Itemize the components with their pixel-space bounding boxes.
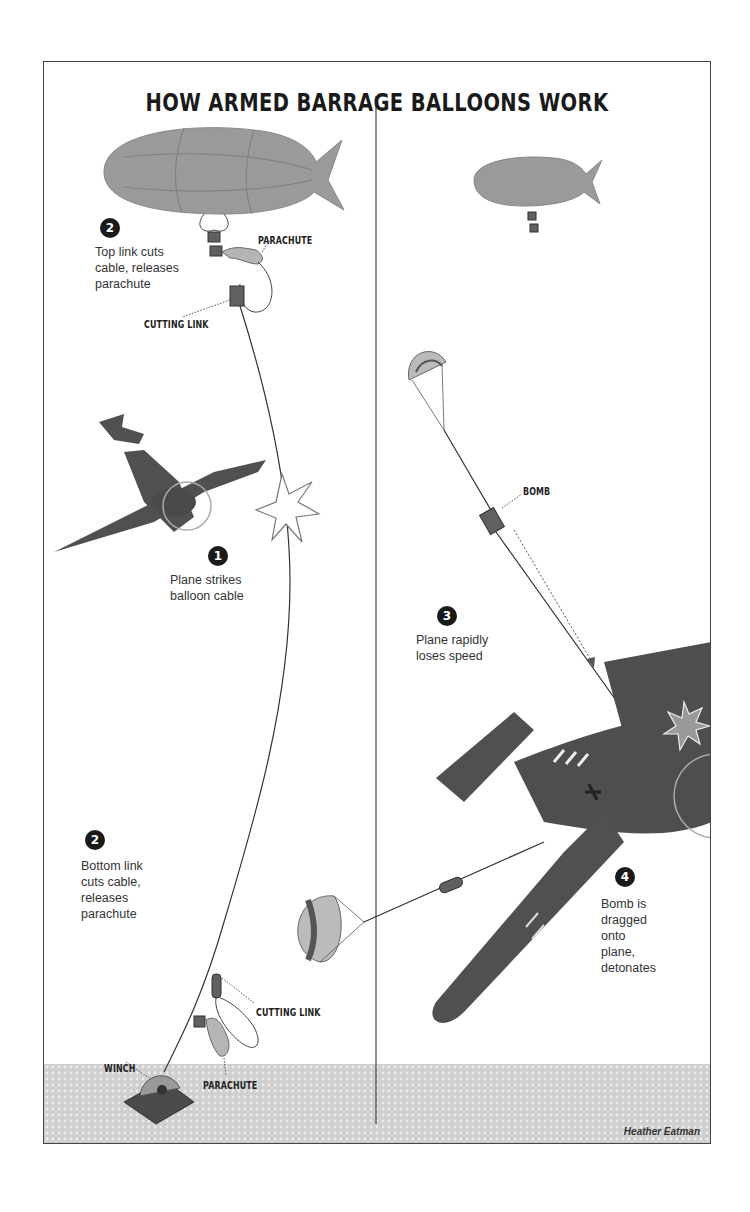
step-caption-2-top: Top link cuts cable, releases parachute [95,244,179,292]
label-cutting-link-bottom: CUTTING LINK [256,1006,321,1019]
barrage-balloon-large [104,128,344,214]
fighter-plane-left [54,414,266,552]
step-caption-3: Plane rapidly loses speed [416,632,488,664]
bomb [480,507,505,534]
step-badge-2-bottom: 2 [85,830,105,850]
bomb-tether [444,430,492,512]
label-winch: WINCH [104,1062,135,1075]
step-badge-4: 4 [615,867,635,887]
step-badge-3: 3 [437,606,457,626]
drag-parachute [298,896,364,962]
fighter-plane-right [432,642,711,1023]
balloon-cable [164,306,290,1072]
artist-credit: Heather Eatman [624,1126,700,1137]
bomb-parachute [408,352,446,430]
step-badge-1: 1 [208,546,228,566]
step-caption-1: Plane strikes balloon cable [170,572,244,604]
infographic-frame: HOW ARMED BARRAGE BALLOONS WORK 2 Top li… [43,61,711,1144]
step-caption-2-bottom: Bottom link cuts cable, releases parachu… [81,858,143,922]
label-parachute-top: PARACHUTE [258,234,312,247]
top-link-upper [208,232,220,242]
cutting-link-bottom [212,974,221,998]
label-parachute-bottom: PARACHUTE [203,1079,257,1092]
bottom-parachute-packed [206,1018,229,1056]
label-cutting-link-top: CUTTING LINK [144,318,209,331]
step-caption-4: Bomb is dragged onto plane, detonates [601,896,656,976]
drag-arrow [514,530,592,662]
barrage-balloon-small [474,157,602,232]
step-badge-2-top: 2 [100,218,120,238]
top-link-lower [210,246,222,256]
label-bomb: BOMB [523,485,550,498]
cutting-link-top [230,286,244,306]
top-parachute-packed [222,248,262,264]
illustration [44,62,711,1144]
diagram-title: HOW ARMED BARRAGE BALLOONS WORK [117,88,636,117]
